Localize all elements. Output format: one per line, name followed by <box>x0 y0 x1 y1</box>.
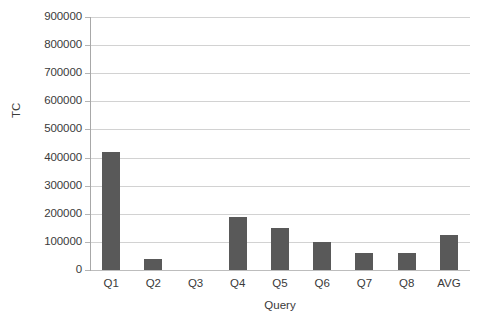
y-axis-tick-label: 100000 <box>0 236 82 248</box>
bar-series <box>90 17 470 270</box>
bar <box>229 217 247 270</box>
y-axis-tick <box>85 186 90 187</box>
x-axis-title: Query <box>90 299 470 311</box>
bar-chart: TC 9000008000007000006000005000004000003… <box>0 0 487 332</box>
bar <box>271 228 289 270</box>
y-axis-tick-label: 400000 <box>0 152 82 164</box>
x-axis-tick-label: AVG <box>419 276 479 290</box>
y-axis-tick-label: 700000 <box>0 67 82 79</box>
y-axis-tick-label: 500000 <box>0 123 82 135</box>
bar <box>398 253 416 270</box>
y-axis-tick <box>85 242 90 243</box>
y-axis-tick <box>85 101 90 102</box>
bar <box>102 152 120 270</box>
bar <box>355 253 373 270</box>
y-axis-tick-label: 600000 <box>0 95 82 107</box>
y-axis-tick-label: 300000 <box>0 180 82 192</box>
y-axis-tick-label: 200000 <box>0 208 82 220</box>
y-axis-tick <box>85 214 90 215</box>
bar <box>440 235 458 270</box>
bar <box>313 242 331 270</box>
y-axis-tick <box>85 158 90 159</box>
y-axis-tick <box>85 17 90 18</box>
y-axis-tick <box>85 73 90 74</box>
y-axis-tick-label: 0 <box>0 264 82 276</box>
y-axis-tick-labels: 9000008000007000006000005000004000003000… <box>0 0 82 332</box>
x-axis-tick-labels: Q1Q2Q3Q4Q5Q6Q7Q8AVG <box>90 276 470 294</box>
gridline <box>90 270 470 271</box>
y-axis-tick <box>85 129 90 130</box>
y-axis-tick-label: 900000 <box>0 11 82 23</box>
bar <box>144 259 162 270</box>
y-axis-tick <box>85 270 90 271</box>
y-axis-tick-label: 800000 <box>0 39 82 51</box>
y-axis-tick <box>85 45 90 46</box>
